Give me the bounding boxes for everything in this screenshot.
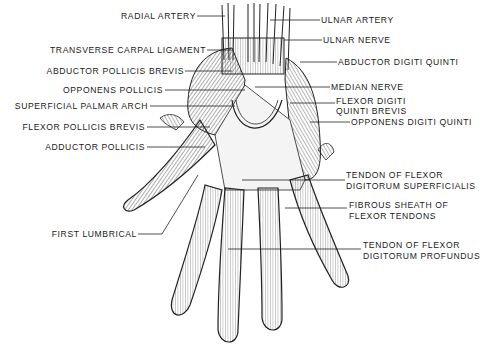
label-tendon-flexor-superficialis-1: TENDON OF FLEXOR [346, 170, 443, 180]
label-transverse-carpal-ligament: TRANSVERSE CARPAL LIGAMENT [50, 45, 206, 55]
label-first-lumbrical: FIRST LUMBRICAL [52, 229, 137, 239]
label-ulnar-artery: ULNAR ARTERY [321, 15, 394, 25]
thumb [124, 120, 215, 211]
label-radial-artery: RADIAL ARTERY [121, 11, 196, 21]
little-finger [290, 175, 349, 287]
middle-finger [218, 188, 244, 342]
label-median-nerve: MEDIAN NERVE [331, 82, 403, 92]
ring-finger [258, 188, 282, 330]
label-flexor-digiti-quinti-brevis-2: QUINTI BREVIS [336, 106, 407, 116]
label-tendon-flexor-profundus-1: TENDON OF FLEXOR [363, 240, 460, 250]
label-fibrous-sheath-2: FLEXOR TENDONS [349, 211, 436, 221]
label-flexor-pollicis-brevis: FLEXOR POLLICIS BREVIS [22, 122, 145, 132]
label-ulnar-nerve: ULNAR NERVE [323, 35, 391, 45]
label-tendon-flexor-superficialis-2: DIGITORUM SUPERFICIALIS [346, 181, 476, 191]
label-abductor-digiti-quinti: ABDUCTOR DIGITI QUINTI [338, 57, 458, 67]
label-opponens-pollicis: OPPONENS POLLICIS [63, 85, 163, 95]
label-adductor-pollicis: ADDUCTOR POLLICIS [45, 142, 145, 152]
label-flexor-digiti-quinti-brevis-1: FLEXOR DIGITI [336, 96, 406, 106]
index-finger [171, 185, 222, 315]
label-fibrous-sheath-1: FIBROUS SHEATH OF [349, 200, 448, 210]
label-abductor-pollicis-brevis: ABDUCTOR POLLICIS BREVIS [47, 66, 184, 76]
label-opponens-digiti-quinti: OPPONENS DIGITI QUINTI [351, 117, 472, 127]
label-superficial-palmar-arch: SUPERFICIAL PALMAR ARCH [15, 101, 148, 111]
label-tendon-flexor-profundus-2: DIGITORUM PROFUNDUS [363, 251, 480, 261]
